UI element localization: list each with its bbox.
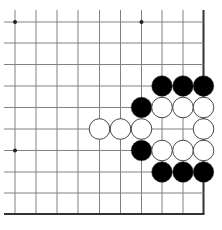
white-stone-icon	[152, 140, 173, 161]
white-stone-icon	[193, 119, 214, 140]
black-stone-icon	[131, 140, 152, 161]
white-stone-icon	[173, 97, 194, 118]
star-point-icon	[140, 20, 144, 24]
black-stone-icon	[193, 76, 214, 97]
black-stone-icon	[152, 76, 173, 97]
white-stone-icon	[131, 119, 152, 140]
star-point-icon	[13, 149, 17, 153]
black-stone-icon	[131, 97, 152, 118]
black-stone-icon	[173, 162, 194, 183]
star-point-icon	[13, 20, 17, 24]
white-stone-icon	[110, 119, 131, 140]
black-stone-icon	[193, 162, 214, 183]
white-stone-icon	[193, 140, 214, 161]
white-stone-icon	[89, 119, 110, 140]
go-board	[0, 0, 222, 230]
stones-layer	[89, 76, 214, 183]
white-stone-icon	[193, 97, 214, 118]
white-stone-icon	[173, 140, 194, 161]
white-stone-icon	[152, 97, 173, 118]
black-stone-icon	[152, 162, 173, 183]
black-stone-icon	[173, 76, 194, 97]
